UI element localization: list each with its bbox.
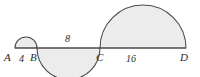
figure-canvas: A B C D 4 8 16 [0,0,200,77]
length-label-AB: 4 [19,54,24,64]
point-label-C: C [96,52,103,63]
semicircle-CD-above [100,5,186,48]
length-label-CD: 16 [126,54,136,64]
point-label-D: D [180,52,188,63]
semicircle-AB-above [15,37,37,48]
point-label-B: B [30,52,37,63]
point-label-A: A [4,52,11,63]
semicircle-BC-below [37,48,100,77]
semicircle-diagram-svg [0,0,200,77]
length-label-BC: 8 [65,34,70,44]
